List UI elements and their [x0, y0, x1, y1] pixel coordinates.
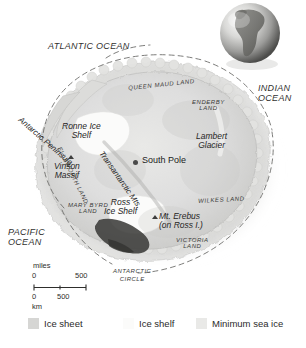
mountain-marker-mount-erebus: [152, 215, 158, 219]
mountain-marker-vinson-massif: [68, 155, 74, 159]
map-canvas: [0, 0, 306, 348]
legend-swatch-ice-shelf: [123, 318, 134, 329]
point-marker-south-pole: [133, 160, 138, 165]
legend-item-ice-sheet: Ice sheet: [28, 318, 83, 329]
scale-bar-graphic: [33, 284, 87, 291]
legend-label-ice-shelf: Ice shelf: [139, 318, 174, 329]
legend-item-ice-shelf: Ice shelf: [123, 318, 174, 329]
globe-inset-graphic: [220, 3, 280, 70]
antarctica-map-figure: ATLANTIC OCEAN INDIAN OCEAN PACIFIC OCEA…: [0, 0, 306, 348]
legend-swatch-minimum-sea-ice: [196, 318, 207, 329]
legend-swatch-ice-sheet: [28, 318, 39, 329]
legend-label-ice-sheet: Ice sheet: [44, 318, 83, 329]
legend-item-minimum-sea-ice: Minimum sea ice: [196, 318, 283, 329]
legend-label-minimum-sea-ice: Minimum sea ice: [212, 318, 283, 329]
map-legend: Ice sheet Ice shelf Minimum sea ice: [0, 318, 306, 336]
